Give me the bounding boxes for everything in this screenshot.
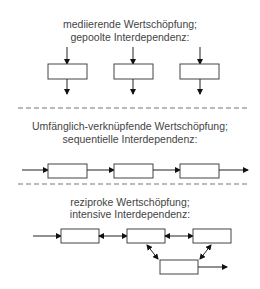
- pooled-unit-3: [180, 47, 219, 94]
- reciprocal-box-2: [127, 229, 165, 243]
- sequential-title-line2: sequentielle Interdependenz:: [63, 133, 198, 145]
- unit-box: [180, 64, 219, 79]
- reciprocal-box-1: [61, 229, 99, 243]
- section-sequential: Umfänglich-verknüpfende Wertschöpfung; s…: [22, 120, 248, 178]
- pooled-unit-2: [114, 47, 153, 94]
- interdependence-diagram: mediierende Wertschöpfung; gepoolte Inte…: [0, 0, 260, 289]
- reciprocal-arrow-2-4: [147, 245, 158, 259]
- sequential-box-3: [180, 164, 219, 178]
- unit-box: [48, 64, 87, 79]
- unit-box: [114, 64, 153, 79]
- section-reciprocal: reziproke Wertschöpfung; intensive Inter…: [33, 196, 231, 274]
- reciprocal-arrow-3-4: [200, 245, 211, 259]
- sequential-box-2: [114, 164, 153, 178]
- reciprocal-title-line1: reziproke Wertschöpfung;: [70, 196, 189, 208]
- section-pooled: mediierende Wertschöpfung; gepoolte Inte…: [48, 18, 219, 94]
- reciprocal-box-4: [160, 260, 198, 274]
- pooled-title-line1: mediierende Wertschöpfung;: [63, 18, 197, 30]
- sequential-title-line1: Umfänglich-verknüpfende Wertschöpfung;: [32, 120, 228, 132]
- reciprocal-box-3: [193, 229, 231, 243]
- sequential-box-1: [48, 164, 87, 178]
- reciprocal-title-line2: intensive Interdependenz:: [70, 208, 190, 220]
- pooled-unit-1: [48, 47, 87, 94]
- pooled-title-line2: gepoolte Interdependenz:: [70, 31, 189, 43]
